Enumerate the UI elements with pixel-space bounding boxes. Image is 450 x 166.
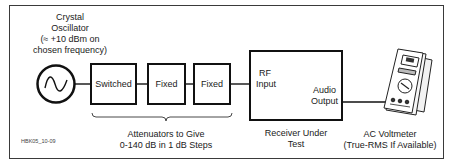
attenuator-brace [92, 113, 232, 121]
receiver-caption-line2: Test [256, 139, 336, 150]
fixed-attenuator-box-2: Fixed [193, 63, 231, 105]
audio-output-line1: Audio [311, 85, 338, 96]
audio-output-line2: Output [311, 96, 338, 107]
attenuators-caption-line1: Attenuators to Give [110, 129, 222, 140]
fixed-attenuator-label-1: Fixed [155, 79, 177, 89]
rf-input-line1: RF [256, 68, 276, 79]
fixed-attenuator-label-2: Fixed [201, 79, 223, 89]
voltmeter-caption: AC Voltmeter (True-RMS If Available) [340, 129, 440, 151]
sine-source-icon [38, 66, 75, 103]
multimeter-icon [384, 49, 432, 115]
rf-input-label: RF Input [256, 68, 276, 90]
audio-output-label: Audio Output [311, 85, 338, 107]
rf-input-line2: Input [256, 79, 276, 90]
attenuators-caption-line2: 0-140 dB in 1 dB Steps [110, 140, 222, 151]
receiver-box: RF Input Audio Output [249, 50, 343, 121]
attenuators-caption: Attenuators to Give 0-140 dB in 1 dB Ste… [110, 129, 222, 151]
voltmeter-caption-line1: AC Voltmeter [340, 129, 440, 140]
receiver-caption: Receiver Under Test [256, 128, 336, 150]
voltmeter-caption-line2: (True-RMS If Available) [340, 140, 440, 151]
switched-attenuator-box: Switched [90, 63, 137, 105]
receiver-caption-line1: Receiver Under [256, 128, 336, 139]
figure-id: HBK05_10-09 [21, 138, 56, 144]
switched-attenuator-label: Switched [95, 79, 132, 89]
fixed-attenuator-box-1: Fixed [147, 63, 186, 105]
